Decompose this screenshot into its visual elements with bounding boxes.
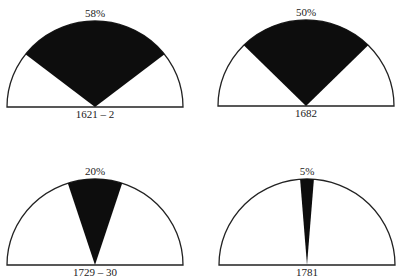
- year-label: 1621 – 2: [76, 108, 115, 120]
- year-label: 1729 – 30: [73, 266, 118, 278]
- semicircle-chart-3: 20%1729 – 30: [7, 165, 183, 278]
- semicircle-chart-2: 50%1682: [218, 6, 394, 119]
- semicircle-chart-1: 58%1621 – 2: [7, 7, 183, 120]
- percent-label: 58%: [85, 7, 105, 19]
- semicircle-charts: 58%1621 – 250%168220%1729 – 305%1781: [0, 0, 406, 280]
- semicircle-chart-4: 5%1781: [219, 165, 395, 278]
- percent-label: 50%: [296, 6, 316, 18]
- percent-label: 5%: [300, 165, 315, 177]
- year-label: 1781: [296, 266, 318, 278]
- percent-label: 20%: [85, 165, 105, 177]
- year-label: 1682: [295, 107, 317, 119]
